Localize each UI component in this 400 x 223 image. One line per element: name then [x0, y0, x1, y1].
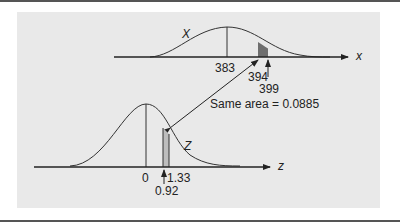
axis-label-x: x: [355, 49, 363, 63]
same-area-arrow: [170, 60, 258, 128]
axis-label-z: z: [277, 159, 284, 173]
tick-1-33: 1.33: [167, 171, 191, 185]
tick-399: 399: [259, 82, 279, 96]
curve-label-x: X: [181, 27, 191, 41]
tick-0-92: 0.92: [155, 184, 179, 198]
lower-shaded-area: [163, 128, 169, 167]
same-area-annotation: Same area = 0.0885: [210, 97, 319, 111]
lower-distribution: Z z 0 1.33 0.92: [34, 104, 284, 198]
tick-383: 383: [215, 61, 235, 75]
upper-distribution: X x 383 394 399: [114, 27, 363, 96]
curve-label-z: Z: [183, 139, 192, 153]
tick-0: 0: [142, 171, 149, 185]
normal-distribution-diagram: X x 383 394 399 Same area = 0.0885 Z z 0…: [0, 0, 400, 223]
upper-shaded-area: [258, 42, 268, 57]
